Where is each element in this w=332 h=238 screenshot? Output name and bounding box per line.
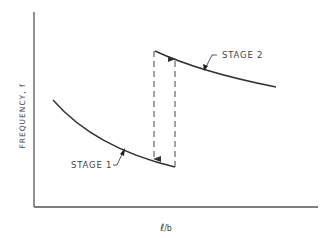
y-axis-label: FREQUENCY, f <box>18 83 27 148</box>
x-axis-label-sub: /b <box>164 224 172 233</box>
diagram-canvas: FREQUENCY, f ℓ/b STAGE 1 STAGE 2 <box>0 0 332 238</box>
stage-1-curve <box>53 100 175 167</box>
stage-1-label: STAGE 1 <box>71 160 112 170</box>
stage-2-leader-line <box>206 55 217 67</box>
stage-2-label: STAGE 2 <box>222 50 263 60</box>
frequency-diagram: FREQUENCY, f ℓ/b STAGE 1 STAGE 2 <box>0 0 332 238</box>
x-axis-label: ℓ/b <box>160 222 172 233</box>
